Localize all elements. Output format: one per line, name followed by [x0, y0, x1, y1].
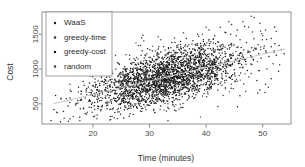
x-tick-label: 20	[88, 129, 97, 138]
legend-marker-random	[54, 65, 56, 67]
legend-label-greedy-time[interactable]: greedy-time	[64, 33, 107, 42]
y-tick-label: 1500	[31, 25, 40, 43]
y-axis-title: Cost	[5, 63, 15, 81]
x-axis-ticks: 20304050	[88, 124, 267, 138]
x-tick-label: 50	[258, 129, 267, 138]
legend-marker-waas	[54, 22, 56, 24]
x-axis-title: Time (minutes)	[138, 153, 195, 163]
y-tick-label: 500	[31, 97, 40, 111]
legend-label-random[interactable]: random	[64, 62, 91, 71]
y-axis-ticks: 50010001500	[31, 25, 42, 111]
x-tick-label: 40	[202, 129, 211, 138]
legend-label-waas[interactable]: WaaS	[64, 18, 86, 27]
legend-marker-greedy-cost	[54, 51, 56, 53]
x-tick-label: 30	[145, 129, 154, 138]
y-tick-label: 1000	[31, 60, 40, 78]
chart-legend[interactable]: WaaSgreedy-timegreedy-costrandom	[46, 12, 112, 76]
legend-marker-greedy-time	[54, 36, 56, 38]
chart-figure: 20304050 50010001500 Time (minutes) Cost…	[0, 0, 305, 167]
scatter-plot-canvas: 20304050 50010001500 Time (minutes) Cost…	[0, 0, 305, 167]
legend-label-greedy-cost[interactable]: greedy-cost	[64, 47, 107, 56]
